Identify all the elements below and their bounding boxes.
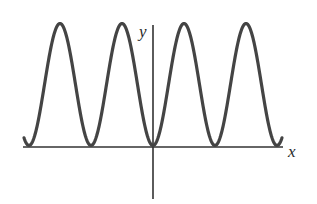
- y-axis-label: y: [137, 22, 147, 41]
- function-plot: y x: [0, 0, 317, 204]
- x-axis-label: x: [287, 142, 296, 161]
